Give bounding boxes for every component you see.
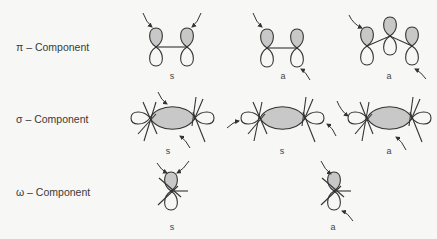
- pi-a-allyl-diagram: [349, 15, 426, 79]
- orbital-diagram: [0, 0, 437, 239]
- sigma-s1-diagram: [131, 92, 214, 148]
- omega-s-diagram: [157, 161, 189, 210]
- sigma-s2-diagram: [227, 97, 336, 142]
- pi-s-diagram: [143, 13, 201, 66]
- omega-a-diagram: [321, 161, 353, 221]
- pi-a-diagram: [253, 13, 310, 80]
- sigma-a-diagram: [337, 97, 431, 150]
